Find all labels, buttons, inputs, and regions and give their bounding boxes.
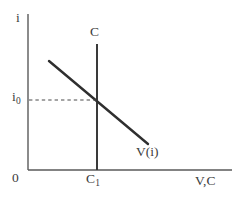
y-tick-subscript: 0 <box>16 96 21 106</box>
x-axis-label: V,C <box>195 174 215 188</box>
money-market-diagram: i 0 V,C i0 C C1 V(i) <box>0 0 238 199</box>
demand-curve-vi <box>49 61 148 144</box>
origin-label: 0 <box>12 171 19 185</box>
y-tick-label-i0: i0 <box>12 90 21 104</box>
x-tick-base: C <box>86 171 95 186</box>
x-tick-label-c1: C1 <box>86 172 100 186</box>
plot-canvas <box>0 0 238 199</box>
x-tick-subscript: 1 <box>95 178 100 188</box>
demand-curve-label: V(i) <box>136 145 159 159</box>
supply-curve-label: C <box>90 25 99 39</box>
y-axis-label: i <box>16 11 20 25</box>
